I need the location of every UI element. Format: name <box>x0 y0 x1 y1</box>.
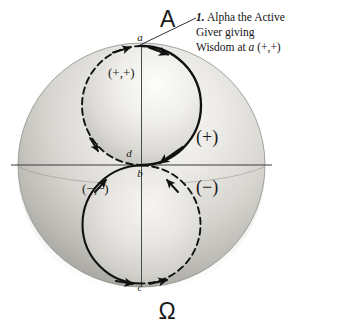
point-label-c: c <box>0 282 280 293</box>
polarity-label-lower-pair: (−,−) <box>82 182 109 195</box>
polarity-label-upper-hemisphere: (+) <box>196 128 218 146</box>
pole-label-omega: Ω <box>0 300 338 323</box>
polarity-label-lower-hemisphere: (−) <box>196 178 218 196</box>
callout-line-1: Alpha the Active <box>207 11 285 23</box>
polarity-label-upper-pair: (+,+) <box>108 66 135 79</box>
callout-caption: 1. Alpha the Active Giver giving Wisdom … <box>196 10 338 55</box>
callout-line-3: Wisdom at a (+,+) <box>196 41 281 53</box>
point-label-b: b <box>0 168 280 179</box>
figure-canvas: A Ω a d b c (+,+) (−,−) (+) (−) 1. Alpha… <box>0 0 338 332</box>
callout-number: 1. <box>196 11 205 23</box>
point-label-d: d <box>0 148 258 159</box>
callout-line-2: Giver giving <box>196 26 254 38</box>
